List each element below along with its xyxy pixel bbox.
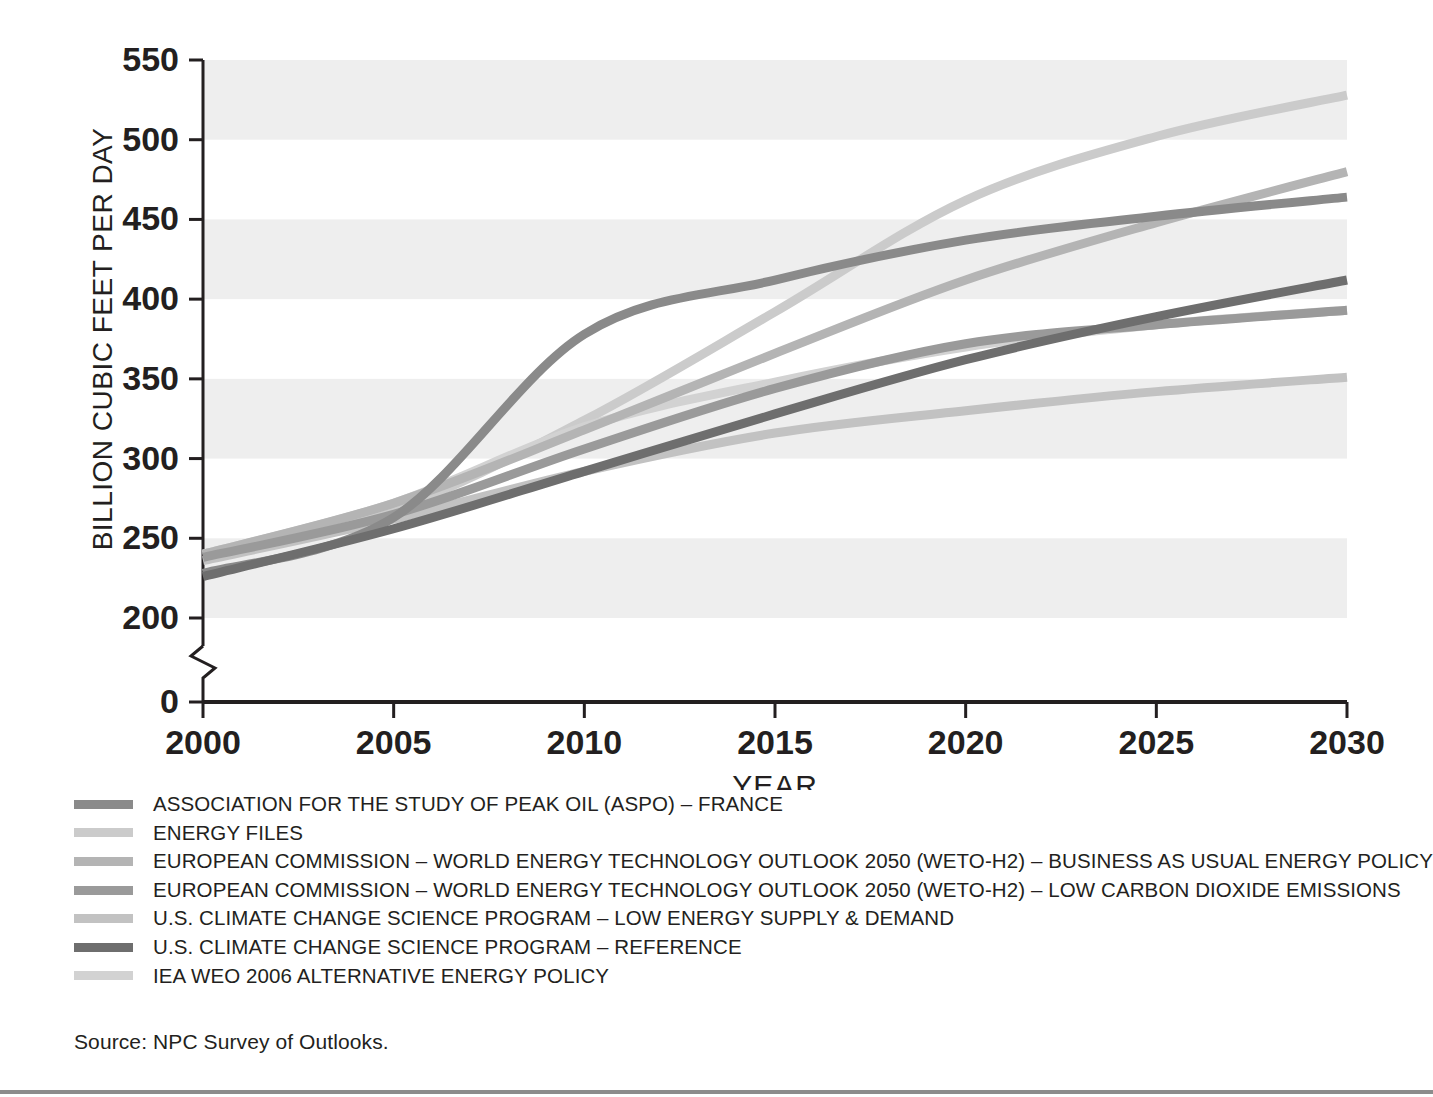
legend-item[interactable]: ASSOCIATION FOR THE STUDY OF PEAK OIL (A…	[74, 790, 1404, 819]
x-axis-title: YEAR	[732, 769, 818, 790]
y-axis-tick-label: 400	[122, 279, 179, 317]
y-axis-tick-label: 350	[122, 359, 179, 397]
legend-color-swatch	[74, 943, 133, 952]
legend-item-label: EUROPEAN COMMISSION – WORLD ENERGY TECHN…	[153, 880, 1401, 901]
line-chart: 5505004504003503002502000200020052010201…	[0, 0, 1433, 790]
x-axis-tick-label: 2015	[737, 723, 813, 761]
x-axis-tick-label: 2000	[165, 723, 241, 761]
y-axis-tick-label: 250	[122, 518, 179, 556]
legend-item[interactable]: U.S. CLIMATE CHANGE SCIENCE PROGRAM – LO…	[74, 904, 1404, 933]
legend-item[interactable]: ENERGY FILES	[74, 819, 1404, 848]
bottom-rule-divider	[0, 1090, 1433, 1094]
legend-item-label: U.S. CLIMATE CHANGE SCIENCE PROGRAM – RE…	[153, 937, 742, 958]
legend-item-label: IEA WEO 2006 ALTERNATIVE ENERGY POLICY	[153, 966, 609, 987]
y-axis-tick-label: 550	[122, 40, 179, 78]
y-axis-title: BILLION CUBIC FEET PER DAY	[87, 128, 118, 551]
x-axis-tick-label: 2010	[547, 723, 623, 761]
legend-item[interactable]: EUROPEAN COMMISSION – WORLD ENERGY TECHN…	[74, 876, 1404, 905]
x-axis-tick-label: 2005	[356, 723, 432, 761]
legend-item-label: U.S. CLIMATE CHANGE SCIENCE PROGRAM – LO…	[153, 908, 954, 929]
plot-band	[203, 219, 1347, 299]
y-axis-zero-label: 0	[160, 682, 179, 720]
y-axis-tick-label: 200	[122, 598, 179, 636]
legend-color-swatch	[74, 971, 133, 980]
source-note: Source: NPC Survey of Outlooks.	[74, 1030, 389, 1054]
legend-item[interactable]: IEA WEO 2006 ALTERNATIVE ENERGY POLICY	[74, 962, 1404, 991]
legend-item[interactable]: U.S. CLIMATE CHANGE SCIENCE PROGRAM – RE…	[74, 933, 1404, 962]
y-axis-break-icon	[191, 646, 215, 702]
legend-item[interactable]: EUROPEAN COMMISSION – WORLD ENERGY TECHN…	[74, 847, 1404, 876]
legend-item-label: EUROPEAN COMMISSION – WORLD ENERGY TECHN…	[153, 851, 1433, 872]
chart-legend: ASSOCIATION FOR THE STUDY OF PEAK OIL (A…	[74, 790, 1404, 990]
plot-band	[203, 538, 1347, 618]
y-axis-tick-label: 450	[122, 199, 179, 237]
legend-item-label: ENERGY FILES	[153, 823, 303, 844]
y-axis-tick-label: 300	[122, 439, 179, 477]
chart-container: 5505004504003503002502000200020052010201…	[0, 0, 1433, 790]
legend-color-swatch	[74, 886, 133, 895]
legend-color-swatch	[74, 914, 133, 923]
legend-color-swatch	[74, 857, 133, 866]
legend-item-label: ASSOCIATION FOR THE STUDY OF PEAK OIL (A…	[153, 794, 783, 815]
x-axis-tick-label: 2020	[928, 723, 1004, 761]
figure-root: 5505004504003503002502000200020052010201…	[0, 0, 1433, 1097]
x-axis-tick-label: 2030	[1309, 723, 1385, 761]
legend-color-swatch	[74, 800, 133, 809]
x-axis-tick-label: 2025	[1119, 723, 1195, 761]
legend-color-swatch	[74, 828, 133, 837]
y-axis-tick-label: 500	[122, 120, 179, 158]
